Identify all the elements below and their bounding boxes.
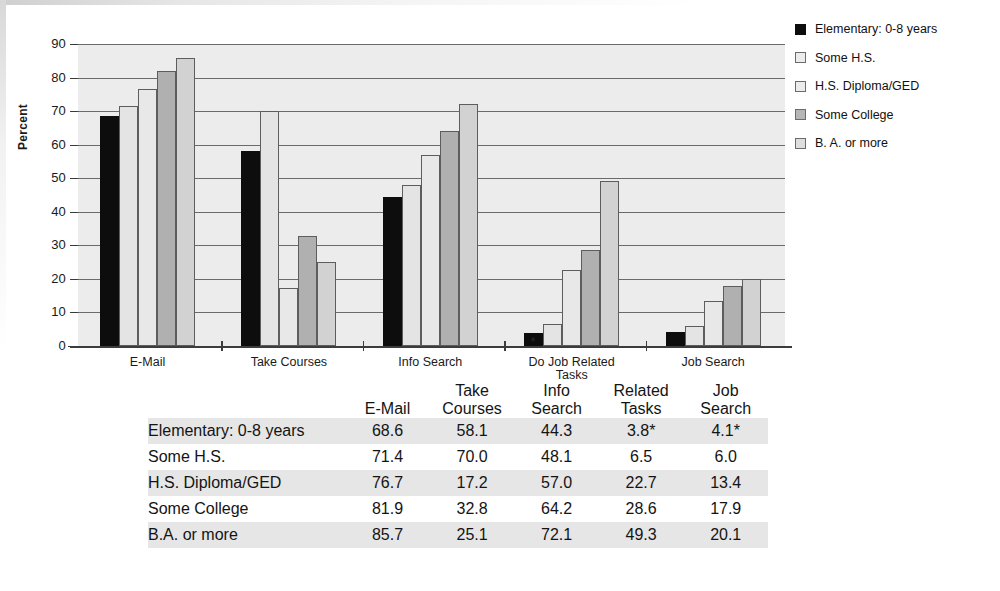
table-cell-value: 57.0 [514,470,599,496]
legend-item[interactable]: B. A. or more [795,136,995,150]
legend-item-label: B. A. or more [815,136,888,150]
legend-swatch-icon [795,81,806,92]
bar-group [100,44,195,346]
x-axis-category-label: Info Search [360,356,500,369]
bar [459,104,478,346]
x-axis-tick-mark [646,341,647,351]
y-axis-tick-label: 70 [32,103,66,118]
bar [241,151,260,346]
bar [157,71,176,346]
table-header: E-MailTake CoursesInfo SearchRelated Tas… [148,382,768,418]
table-row-label: B.A. or more [148,522,345,548]
table-header-row: E-MailTake CoursesInfo SearchRelated Tas… [148,382,768,418]
table-column-header: Take Courses [430,382,515,418]
y-axis-tick-mark [70,78,78,79]
bar [383,197,402,346]
legend-item[interactable]: Some College [795,108,995,122]
y-axis-tick-mark [70,279,78,280]
legend-item[interactable]: Elementary: 0-8 years [795,22,995,36]
y-axis-tick-label: 30 [32,237,66,252]
bar [685,326,704,346]
y-axis-title: Percent [16,104,30,150]
bar [260,111,279,346]
bar [119,106,138,346]
table-row-label: Some H.S. [148,444,345,470]
table-cell-value: 32.8 [430,496,515,522]
y-axis-tick-label: 80 [32,70,66,85]
bar [666,332,685,346]
table-corner-header [148,382,345,418]
bar [704,301,723,346]
x-axis-tick-mark [363,341,364,351]
table-cell-value: 49.3 [599,522,684,548]
x-axis-tick-mark [504,341,505,351]
table-cell-value: 28.6 [599,496,684,522]
bar [317,262,336,346]
table-cell-value: 81.9 [345,496,430,522]
bar [100,116,119,346]
bar [600,181,619,346]
y-axis-tick-mark [70,245,78,246]
x-axis-tick-mark [221,341,222,351]
data-table: E-MailTake CoursesInfo SearchRelated Tas… [148,382,768,548]
legend-item-label: Some H.S. [815,51,875,65]
y-axis-tick-label: 50 [32,170,66,185]
table-cell-value: 68.6 [345,418,430,444]
y-axis-tick-mark [70,178,78,179]
table-column-header: E-Mail [345,382,430,418]
bar-significance-asterisk: * [531,336,536,348]
bar-group [666,44,761,346]
y-axis-tick-label: 20 [32,271,66,286]
table-cell-value: 48.1 [514,444,599,470]
table-cell-value: 64.2 [514,496,599,522]
table-body: Elementary: 0-8 years68.658.144.33.8*4.1… [148,418,768,548]
y-axis-tick-label: 40 [32,204,66,219]
y-axis-tick-mark [70,145,78,146]
table-row: Some H.S.71.470.048.16.56.0 [148,444,768,470]
scan-edge-left [0,0,6,591]
table-cell-value: 25.1 [430,522,515,548]
bar [543,324,562,346]
bar-group [524,44,619,346]
bar [723,286,742,346]
table-row: H.S. Diploma/GED76.717.257.022.713.4 [148,470,768,496]
table-row-label: H.S. Diploma/GED [148,470,345,496]
table-cell-value: 76.7 [345,470,430,496]
bar [138,89,157,346]
bar [402,185,421,346]
table-column-header: Related Tasks [599,382,684,418]
bar [742,279,761,346]
x-axis-line [70,346,792,348]
x-axis-category-label: E-Mail [78,356,218,369]
legend-swatch-icon [795,109,806,120]
legend-item[interactable]: H.S. Diploma/GED [795,79,995,93]
table-cell-value: 4.1* [683,418,768,444]
table-cell-value: 6.5 [599,444,684,470]
bar [581,250,600,346]
y-axis-tick-label: 10 [32,304,66,319]
bar [298,236,317,346]
table-cell-value: 20.1 [683,522,768,548]
bar-group [241,44,336,346]
x-axis-category-label: Take Courses [219,356,359,369]
bar [421,155,440,346]
table-cell-value: 71.4 [345,444,430,470]
table-column-header: Job Search [683,382,768,418]
table-cell-value: 85.7 [345,522,430,548]
y-axis-tick-mark [70,111,78,112]
bar [176,58,195,346]
y-axis-tick-label: 60 [32,137,66,152]
legend-swatch-icon [795,24,806,35]
x-axis-category-label: Do Job Related Tasks [502,356,642,382]
bar [562,270,581,346]
table-cell-value: 13.4 [683,470,768,496]
y-axis-tick-label: 90 [32,36,66,51]
bar [279,288,298,346]
bar-group [383,44,478,346]
legend-swatch-icon [795,52,806,63]
legend-item-label: Elementary: 0-8 years [815,22,937,36]
table-cell-value: 70.0 [430,444,515,470]
legend-item[interactable]: Some H.S. [795,51,995,65]
legend-swatch-icon [795,138,806,149]
table-cell-value: 17.2 [430,470,515,496]
